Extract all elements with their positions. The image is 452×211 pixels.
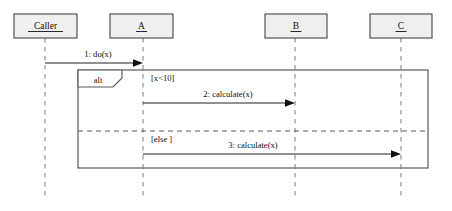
guards-group: [x<10] [else ] <box>151 73 175 144</box>
message-2-arrowhead <box>285 99 295 107</box>
lifeline-head-c[interactable]: C <box>370 14 432 38</box>
message-3[interactable]: 3: calculate(x) <box>143 140 401 158</box>
lifeline-label-b: B <box>293 21 299 31</box>
lifeline-head-b[interactable]: B <box>265 14 327 38</box>
lifeline-label-c: C <box>398 21 404 31</box>
alt-combined-fragment[interactable]: alt <box>78 70 428 168</box>
message-2[interactable]: 2: calculate(x) <box>143 89 295 107</box>
lifeline-label-a: A <box>138 21 145 31</box>
fragment-border <box>78 70 428 168</box>
message-2-label: 2: calculate(x) <box>203 89 253 99</box>
lifeline-head-a[interactable]: A <box>110 14 173 38</box>
message-1-label: 1: do(x) <box>84 49 112 59</box>
lifeline-label-caller: Caller <box>34 21 58 31</box>
diagram-canvas: alt [x<10] [else ] 1: do(x) 2: calculate… <box>0 0 452 211</box>
lifelines-group <box>45 38 401 196</box>
message-1[interactable]: 1: do(x) <box>45 49 143 67</box>
uml-sequence-diagram: alt [x<10] [else ] 1: do(x) 2: calculate… <box>0 0 452 211</box>
fragment-operator-label: alt <box>94 75 103 85</box>
message-1-arrowhead <box>133 59 143 67</box>
lifeline-head-caller[interactable]: Caller <box>14 14 77 38</box>
message-3-label: 3: calculate(x) <box>228 140 278 150</box>
message-3-arrowhead <box>391 150 401 158</box>
guard-operand-1: [x<10] <box>151 73 175 83</box>
guard-operand-2: [else ] <box>151 134 172 144</box>
